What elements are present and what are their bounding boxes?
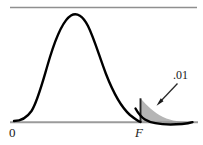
tail-area-label: .01 bbox=[173, 69, 188, 81]
x-axis-critical-value-label: F bbox=[135, 126, 143, 139]
density-curve-left bbox=[14, 14, 141, 122]
callout-arrow-shaft bbox=[160, 84, 178, 103]
x-axis-origin-label: 0 bbox=[9, 126, 16, 139]
shaded-tail-region bbox=[141, 99, 191, 123]
f-distribution-figure: 0 F .01 bbox=[0, 0, 203, 145]
